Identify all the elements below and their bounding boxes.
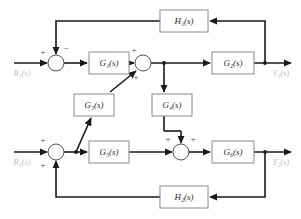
block-h1[interactable]: H₁(s) [160,10,208,32]
block-g6[interactable]: G₆(s) [212,141,254,163]
block-diagram: H₁(s) G₁(s) G₂(s) G₃(s) G₄(s) G₅(s) G₆(s… [0,0,301,219]
output-label-y1: Y₁(s) [273,68,290,78]
input-label-r2: R₂(s) [12,157,30,167]
node-dot-n3 [74,150,78,154]
sign-s4-g4-plus: + [190,134,195,144]
block-layer: H₁(s) G₁(s) G₂(s) G₃(s) G₄(s) G₅(s) G₆(s… [74,10,254,208]
block-g5-label: G₅(s) [99,147,118,157]
node-dot-n2 [263,61,267,65]
sign-s2-g3-plus: + [133,72,138,82]
block-g6-label: G₆(s) [223,147,242,157]
summing-junction-s2[interactable] [135,55,151,71]
summing-junction-s4[interactable] [173,144,189,160]
block-g2[interactable]: G₂(s) [212,52,254,74]
input-label-r1: R₁(s) [12,68,30,78]
sign-s4-input-plus: + [165,134,170,144]
block-g1[interactable]: G₁(s) [89,52,129,74]
sign-s3-input-plus: + [40,135,45,145]
node-dot-n1 [162,61,166,65]
output-label-y2: Y₂(s) [273,157,290,167]
block-h2[interactable]: H₂(s) [160,186,208,208]
block-h1-label: H₁(s) [173,16,193,26]
summing-junction-s3[interactable] [48,144,64,160]
wire-h2-to-sum3 [56,161,160,197]
block-g4[interactable]: G₄(s) [152,94,192,116]
block-g2-label: G₂(s) [223,58,242,68]
wire-h1-to-sum1 [56,21,160,54]
sign-s1-input-plus: + [40,47,45,57]
sign-s3-feedback-plus: + [40,160,45,170]
block-diagram-canvas: H₁(s) G₁(s) G₂(s) G₃(s) G₄(s) G₅(s) G₆(s… [0,0,301,219]
summing-junction-s1[interactable] [48,55,64,71]
sign-s2-input-plus: + [131,45,136,55]
block-g1-label: G₁(s) [99,58,118,68]
block-g3[interactable]: G₃(s) [74,94,114,116]
block-g3-label: G₃(s) [84,100,103,110]
block-g4-label: G₄(s) [162,100,181,110]
sign-s1-feedback-minus: − [63,43,68,53]
node-dot-n4 [263,150,267,154]
block-h2-label: H₂(s) [173,192,193,202]
block-g5[interactable]: G₅(s) [89,141,129,163]
